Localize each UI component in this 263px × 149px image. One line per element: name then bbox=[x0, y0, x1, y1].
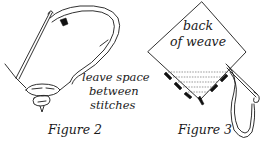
figure-3: back of weave Figure bbox=[148, 2, 259, 138]
figure-3-caption: Figure 3 bbox=[177, 122, 232, 137]
annotation-line-1: leave space bbox=[82, 70, 150, 84]
stitch-knot-icon bbox=[16, 78, 70, 112]
annotation-line-2: between bbox=[89, 84, 139, 98]
needle-icon bbox=[5, 11, 53, 79]
weave-label-line-1: back bbox=[183, 18, 213, 33]
instruction-diagram: leave space between stitches Figure 2 ba… bbox=[0, 0, 263, 149]
weave-diamond bbox=[148, 2, 246, 100]
figure-2: leave space between stitches Figure 2 bbox=[5, 6, 150, 137]
figure-2-caption: Figure 2 bbox=[47, 122, 102, 137]
weave-label-line-2: of weave bbox=[170, 34, 226, 49]
annotation-line-3: stitches bbox=[90, 98, 135, 112]
weft-lines bbox=[168, 72, 228, 92]
